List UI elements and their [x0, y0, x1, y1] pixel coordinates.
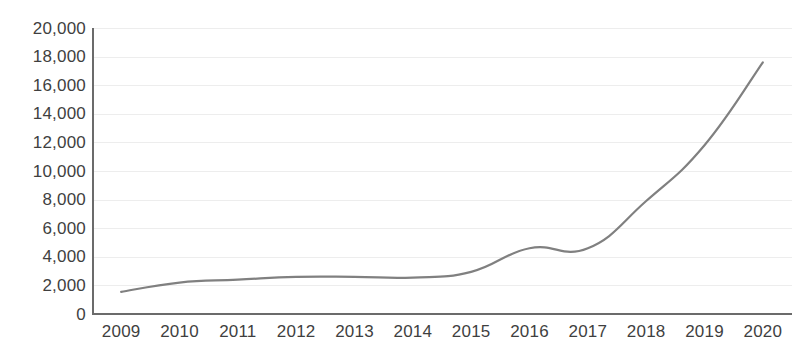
- x-axis: 2009201020112012201320142015201620172018…: [92, 322, 792, 348]
- x-axis-tick-label: 2019: [675, 322, 735, 342]
- x-axis-tick-label: 2014: [383, 322, 443, 342]
- y-axis-tick-label: 4,000: [0, 248, 86, 265]
- x-axis-tick-label: 2017: [558, 322, 618, 342]
- y-axis-tick-label: 14,000: [0, 105, 86, 122]
- plot-area: [92, 28, 792, 314]
- y-axis-tick-label: 2,000: [0, 277, 86, 294]
- x-axis-tick-label: 2018: [616, 322, 676, 342]
- x-axis-tick-label: 2011: [208, 322, 268, 342]
- x-axis-tick-label: 2016: [500, 322, 560, 342]
- y-axis-tick-label: 16,000: [0, 77, 86, 94]
- x-axis-tick-label: 2010: [150, 322, 210, 342]
- y-axis-tick-label: 18,000: [0, 48, 86, 65]
- y-axis-tick-label: 6,000: [0, 220, 86, 237]
- y-axis-tick-label: 8,000: [0, 191, 86, 208]
- x-axis-tick-label: 2012: [266, 322, 326, 342]
- y-axis-tick-label: 20,000: [0, 20, 86, 37]
- series-line: [121, 62, 763, 292]
- x-axis-line: [92, 313, 792, 315]
- x-axis-tick-label: 2015: [441, 322, 501, 342]
- y-axis-tick-label: 10,000: [0, 163, 86, 180]
- y-axis-line: [92, 28, 94, 315]
- y-axis-tick-label: 0: [0, 306, 86, 323]
- series-line-chart-svg: [92, 28, 792, 314]
- x-axis-tick-label: 2009: [91, 322, 151, 342]
- x-axis-tick-label: 2013: [325, 322, 385, 342]
- x-axis-tick-label: 2020: [733, 322, 793, 342]
- line-chart: 02,0004,0006,0008,00010,00012,00014,0001…: [0, 0, 801, 349]
- y-axis-tick-label: 12,000: [0, 134, 86, 151]
- y-axis: 02,0004,0006,0008,00010,00012,00014,0001…: [0, 0, 86, 349]
